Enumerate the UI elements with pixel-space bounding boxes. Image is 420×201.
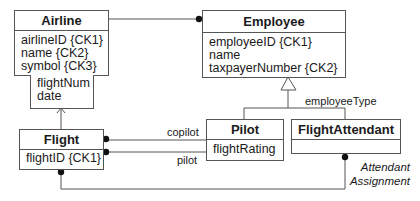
attribute: flightRating (213, 143, 283, 156)
class-pilot[interactable]: Pilot flightRating (206, 119, 284, 161)
class-flight[interactable]: Flight flightID {CK1} (19, 129, 104, 170)
class-name: Airline (15, 11, 108, 31)
attendant-assignment-label: Attendant Assignment (346, 160, 410, 188)
attribute: taxpayerNumber {CK2} (209, 62, 345, 75)
class-name: Employee (203, 11, 345, 33)
pilot-role-label: pilot (177, 154, 197, 166)
generalization-label: employeeType (305, 95, 377, 107)
label-line: Attendant (346, 160, 410, 174)
class-airline[interactable]: Airline airlineID {CK1} name {CK2} symbo… (14, 10, 109, 76)
class-name: FlightAttendant (292, 120, 400, 140)
copilot-role-label: copilot (167, 126, 199, 138)
class-name: Pilot (207, 120, 283, 140)
class-employee[interactable]: Employee employeeID {CK1} name taxpayerN… (202, 10, 346, 78)
class-name: Flight (20, 130, 103, 150)
attribute: symbol {CK3} (21, 60, 108, 73)
attribute: flightID {CK1} (26, 152, 103, 165)
qualifier-box[interactable]: flightNum date (30, 75, 94, 109)
qualifier: date (37, 90, 93, 103)
label-line: Assignment (346, 174, 410, 188)
class-flight-attendant[interactable]: FlightAttendant (291, 119, 401, 154)
